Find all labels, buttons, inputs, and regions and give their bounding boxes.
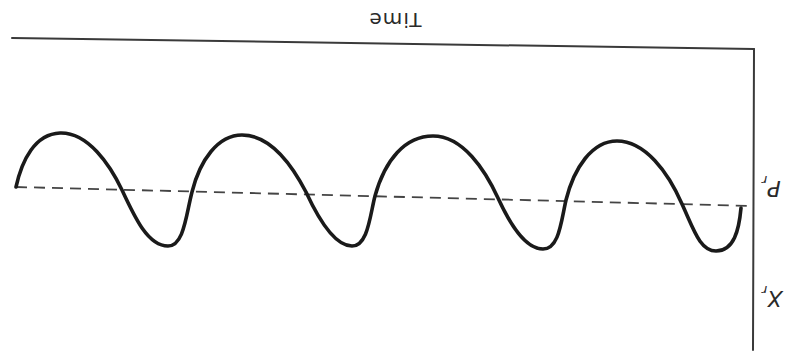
time-axis-line [12,38,754,49]
pr-label-subscript: r [762,173,767,188]
xr-label-main: X [767,286,782,311]
xr-label: Xr [762,284,782,309]
pr-label-main: P [767,176,780,201]
time-axis-label: Time [360,10,430,30]
xr-axis-line [753,49,754,350]
waveform-curve [16,133,741,251]
xr-label-subscript: r [762,283,767,298]
pr-label: Pr [762,174,781,199]
oscillation-figure [0,0,793,356]
